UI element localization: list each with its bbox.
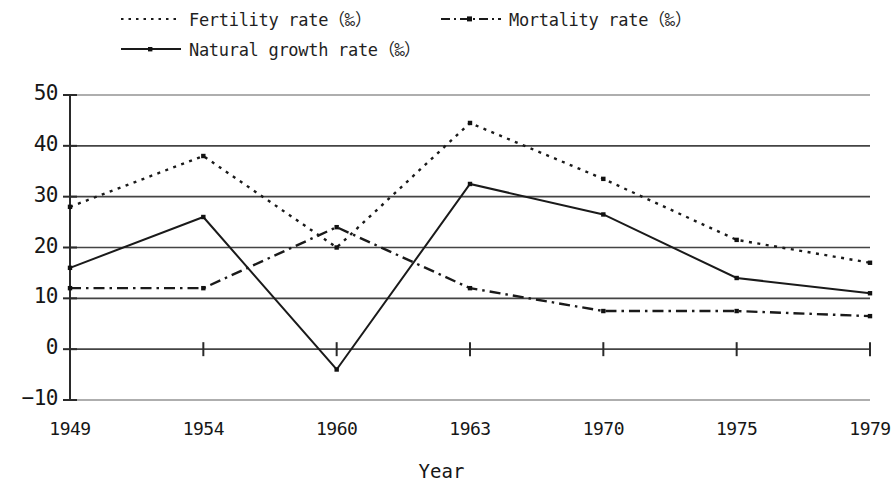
y-tick-label-0: 0	[0, 335, 58, 359]
data-point-fertility-1970	[601, 177, 605, 181]
data-point-fertility-1963	[468, 121, 472, 125]
data-point-growth-1960	[334, 367, 338, 371]
x-axis-title: Year	[0, 460, 883, 482]
data-point-growth-1975	[734, 276, 738, 280]
data-point-mortality-1979	[868, 314, 872, 318]
data-point-growth-1949	[68, 266, 72, 270]
data-point-mortality-1975	[734, 309, 738, 313]
data-point-growth-1979	[868, 291, 872, 295]
data-point-mortality-1954	[201, 286, 205, 290]
x-tick-label-1949: 1949	[30, 418, 110, 439]
y-tick-label-minus10: −10	[0, 386, 58, 410]
y-tick-label-20: 20	[0, 234, 58, 258]
y-tick-label-10: 10	[0, 284, 58, 308]
data-point-fertility-1949	[68, 205, 72, 209]
y-tick-label-50: 50	[0, 81, 58, 105]
x-tick-label-1979: 1979	[830, 418, 895, 439]
y-tick-label-40: 40	[0, 132, 58, 156]
data-point-growth-1970	[601, 212, 605, 216]
data-point-growth-1954	[201, 215, 205, 219]
series-line-growth	[70, 184, 870, 370]
x-tick-label-1970: 1970	[563, 418, 643, 439]
data-point-mortality-1970	[601, 309, 605, 313]
data-point-mortality-1963	[468, 286, 472, 290]
data-point-fertility-1975	[734, 238, 738, 242]
series-layer	[68, 121, 872, 372]
x-tick-label-1975: 1975	[697, 418, 777, 439]
data-point-growth-1963	[468, 182, 472, 186]
x-tick-label-1963: 1963	[430, 418, 510, 439]
x-tick-label-1954: 1954	[163, 418, 243, 439]
x-tick-label-1960: 1960	[297, 418, 377, 439]
data-point-mortality-1960	[334, 225, 338, 229]
data-point-fertility-1960	[334, 245, 338, 249]
y-tick-label-30: 30	[0, 183, 58, 207]
data-point-mortality-1949	[68, 286, 72, 290]
data-point-fertility-1979	[868, 261, 872, 265]
data-point-fertility-1954	[201, 154, 205, 158]
series-line-mortality	[70, 227, 870, 316]
series-line-fertility	[70, 123, 870, 263]
